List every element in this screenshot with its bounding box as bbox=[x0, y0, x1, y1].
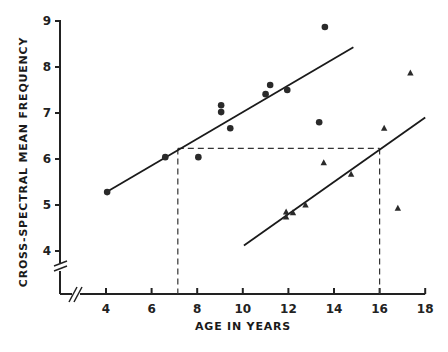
y-tick-label: 7 bbox=[43, 106, 51, 120]
x-tick-label: 18 bbox=[417, 302, 434, 316]
circle-marker bbox=[195, 154, 202, 161]
x-tick-label: 4 bbox=[102, 302, 110, 316]
y-tick-label: 5 bbox=[43, 198, 51, 212]
circle-marker bbox=[104, 189, 111, 196]
y-tick-label: 9 bbox=[43, 14, 51, 28]
circle-marker bbox=[262, 91, 269, 98]
x-tick-label: 12 bbox=[280, 302, 297, 316]
circle-marker bbox=[316, 119, 323, 126]
y-axis-break-mark bbox=[54, 266, 67, 271]
circle-marker bbox=[162, 154, 169, 161]
data-points bbox=[104, 24, 414, 220]
circle-marker bbox=[322, 24, 329, 31]
triangle-marker bbox=[395, 205, 401, 211]
x-tick-label: 8 bbox=[193, 302, 201, 316]
regression-lines bbox=[105, 47, 425, 245]
x-axis-title: AGE IN YEARS bbox=[195, 320, 291, 333]
triangle-marker bbox=[407, 69, 413, 75]
circles-fit-line bbox=[105, 47, 354, 193]
triangle-marker bbox=[381, 125, 387, 131]
circle-marker bbox=[227, 125, 234, 132]
y-tick-label: 8 bbox=[43, 60, 51, 74]
circle-marker bbox=[218, 109, 225, 116]
x-tick-label: 10 bbox=[234, 302, 251, 316]
triangle-marker bbox=[321, 159, 327, 165]
y-tick-label: 4 bbox=[43, 244, 51, 258]
y-tick-label: 6 bbox=[43, 152, 51, 166]
triangle-marker bbox=[283, 208, 289, 214]
triangles-fit-line bbox=[244, 118, 425, 246]
axis-ticks: 4681012141618456789 bbox=[43, 14, 434, 316]
circle-marker bbox=[267, 82, 274, 89]
scatter-chart: 4681012141618456789 AGE IN YEARS CROSS-S… bbox=[0, 0, 448, 352]
axes bbox=[54, 20, 425, 302]
x-tick-label: 16 bbox=[371, 302, 388, 316]
circle-marker bbox=[284, 87, 291, 94]
x-tick-label: 14 bbox=[326, 302, 343, 316]
x-tick-label: 6 bbox=[147, 302, 155, 316]
y-axis-title: CROSS-SPECTRAL MEAN FREQUENCY bbox=[17, 37, 30, 288]
circle-marker bbox=[218, 102, 225, 109]
